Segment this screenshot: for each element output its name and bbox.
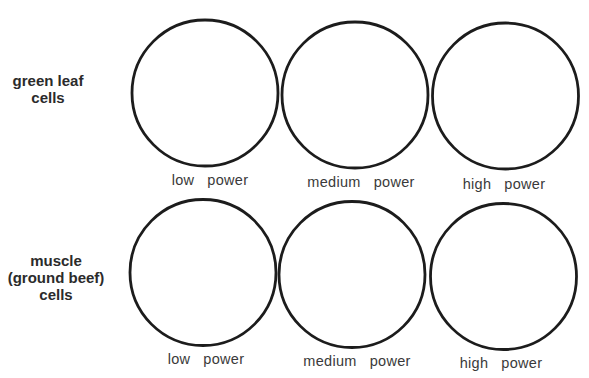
- magnification-label-high: high power: [460, 355, 543, 371]
- magnification-label-high: high power: [463, 176, 546, 192]
- field-of-view-circle-green-leaf-low[interactable]: [132, 20, 278, 166]
- magnification-label-medium: medium power: [307, 174, 414, 190]
- magnification-label-medium: medium power: [303, 353, 410, 369]
- field-of-view-circle-muscle-low[interactable]: [130, 200, 276, 346]
- field-of-view-circle-muscle-medium[interactable]: [279, 202, 425, 348]
- field-of-view-circle-green-leaf-medium[interactable]: [282, 22, 428, 168]
- field-of-view-circle-green-leaf-high[interactable]: [433, 23, 579, 169]
- field-of-view-circle-muscle-high[interactable]: [431, 204, 577, 350]
- magnification-label-low: low power: [168, 351, 245, 367]
- magnification-label-low: low power: [172, 172, 249, 188]
